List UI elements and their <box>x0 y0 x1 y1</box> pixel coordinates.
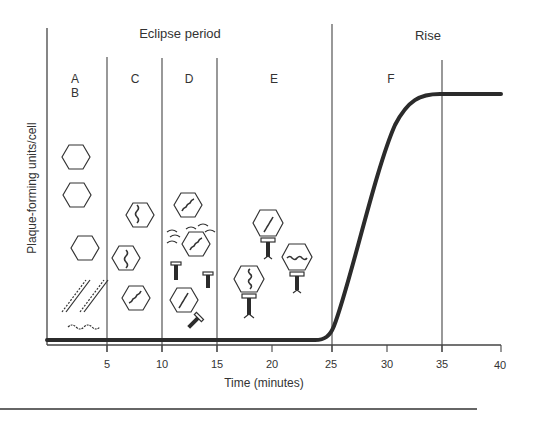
dna-strand-icon <box>66 280 90 312</box>
stage-e-illustration <box>234 210 312 318</box>
filled-head-icon <box>170 288 198 312</box>
tail-fiber-icon <box>186 224 215 232</box>
x-tick-40: 40 <box>494 359 506 371</box>
assembled-phage-icon <box>234 266 264 318</box>
x-tick-20: 20 <box>266 358 278 370</box>
filled-head-icon <box>126 203 154 227</box>
filled-head-icon <box>122 286 150 310</box>
x-tick-30: 30 <box>381 358 393 370</box>
y-axis-label: Plaque-forming units/cell <box>25 122 39 253</box>
tail-icon <box>171 262 181 280</box>
stage-c-illustration <box>112 203 154 310</box>
dna-strand-icon <box>68 325 100 329</box>
dna-strand-icon <box>62 280 86 312</box>
empty-head-icon <box>62 145 90 169</box>
x-axis-ticks <box>107 345 501 352</box>
empty-head-icon <box>71 236 99 260</box>
stage-label-c: C <box>131 72 140 86</box>
x-tick-10: 10 <box>156 358 168 370</box>
assembled-phage-icon <box>253 210 283 259</box>
growth-curve-figure: Eclipse period Rise A B C D E F Plaque-f… <box>0 0 535 425</box>
tail-icon <box>203 272 213 288</box>
tail-icon <box>185 312 203 330</box>
stage-ab-illustration <box>62 145 108 329</box>
stage-label-d: D <box>185 72 194 86</box>
stage-label-f: F <box>387 72 394 86</box>
filled-head-icon <box>112 246 140 270</box>
x-tick-5: 5 <box>104 358 110 370</box>
eclipse-period-label: Eclipse period <box>139 26 221 41</box>
stage-label-a: A <box>71 72 79 86</box>
empty-head-icon <box>63 183 91 207</box>
filled-head-icon <box>174 193 202 217</box>
rise-period-label: Rise <box>415 28 441 43</box>
dna-strand-icon <box>84 280 108 312</box>
tail-fiber-icon <box>167 230 180 243</box>
x-tick-labels: 5 10 15 20 25 30 35 40 <box>104 358 506 371</box>
stage-label-e: E <box>270 72 278 86</box>
x-tick-15: 15 <box>211 358 223 370</box>
growth-curve <box>47 94 501 340</box>
stage-label-b: B <box>71 86 79 100</box>
x-axis-label: Time (minutes) <box>224 376 304 390</box>
x-tick-25: 25 <box>325 358 337 370</box>
stage-d-illustration <box>167 193 215 331</box>
assembled-phage-icon <box>282 244 312 293</box>
x-tick-35: 35 <box>436 358 448 370</box>
filled-head-icon <box>182 232 210 256</box>
dna-strand-icon <box>80 280 104 312</box>
